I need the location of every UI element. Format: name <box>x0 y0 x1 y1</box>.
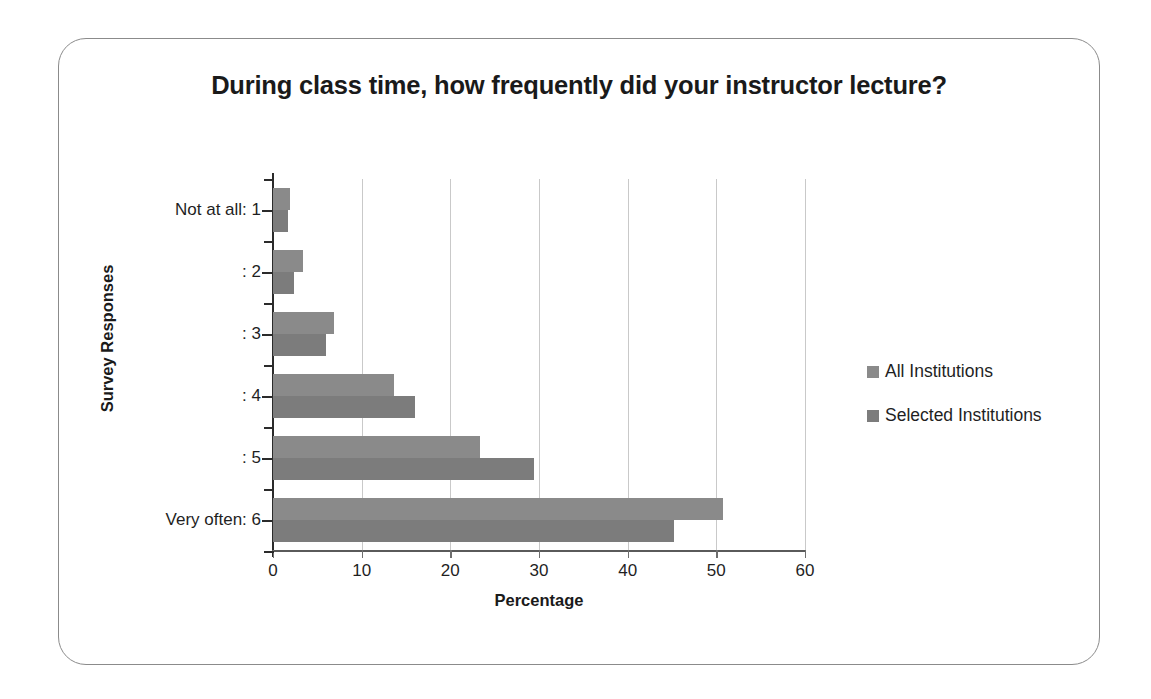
legend-item[interactable]: Selected Institutions <box>867 405 1095 426</box>
x-axis-tick <box>716 550 717 558</box>
legend-label: Selected Institutions <box>885 405 1042 426</box>
bar <box>273 374 394 396</box>
x-axis-tick <box>539 550 540 558</box>
y-axis-tick-minor <box>264 303 274 305</box>
plot-area <box>273 179 805 551</box>
bar <box>273 498 723 520</box>
y-axis-tick-label: : 5 <box>242 448 261 468</box>
chart-legend: All InstitutionsSelected Institutions <box>867 361 1095 449</box>
x-axis-tick-label: 10 <box>352 561 371 581</box>
bar <box>273 458 534 480</box>
y-axis-tick-label: : 4 <box>242 386 261 406</box>
gridline <box>805 179 806 551</box>
x-axis-tick <box>362 550 363 558</box>
legend-item[interactable]: All Institutions <box>867 361 1095 382</box>
y-axis-tick-label: Very often: 6 <box>166 510 261 530</box>
y-axis-tick-minor <box>264 365 274 367</box>
legend-swatch-icon <box>867 410 879 422</box>
x-axis-tick-label: 40 <box>618 561 637 581</box>
x-axis-tick-label: 50 <box>707 561 726 581</box>
gridline <box>362 179 363 551</box>
bar <box>273 210 288 232</box>
chart-title: During class time, how frequently did yo… <box>169 69 989 102</box>
y-axis-tick-minor <box>264 551 274 553</box>
legend-label: All Institutions <box>885 361 993 382</box>
bar <box>273 188 290 210</box>
x-axis-tick-label: 60 <box>796 561 815 581</box>
x-axis-tick <box>450 550 451 558</box>
gridline <box>628 179 629 551</box>
y-axis-tick-minor <box>264 489 274 491</box>
bar <box>273 436 480 458</box>
y-axis-tick-label: Not at all: 1 <box>175 200 261 220</box>
y-axis-tick-minor <box>264 427 274 429</box>
bar <box>273 396 415 418</box>
x-axis-title: Percentage <box>273 591 805 610</box>
y-axis-tick-label: : 2 <box>242 262 261 282</box>
y-axis-tick-label: : 3 <box>242 324 261 344</box>
y-axis-tick-labels: Not at all: 1: 2: 3: 4: 5Very often: 6 <box>99 179 261 551</box>
bar <box>273 312 334 334</box>
x-axis-tick <box>628 550 629 558</box>
gridline <box>716 179 717 551</box>
x-axis-tick-label: 0 <box>268 561 277 581</box>
y-axis-tick-minor <box>264 241 274 243</box>
bar <box>273 520 674 542</box>
bar <box>273 272 294 294</box>
gridline <box>539 179 540 551</box>
x-axis-tick-label: 20 <box>441 561 460 581</box>
gridline <box>450 179 451 551</box>
chart-frame: During class time, how frequently did yo… <box>58 38 1100 665</box>
bar <box>273 250 303 272</box>
legend-swatch-icon <box>867 366 879 378</box>
bar <box>273 334 326 356</box>
y-axis-tick-minor <box>264 179 274 181</box>
x-axis-tick-label: 30 <box>530 561 549 581</box>
x-axis-tick-labels: 0102030405060 <box>273 561 805 587</box>
x-axis-tick <box>805 550 806 558</box>
